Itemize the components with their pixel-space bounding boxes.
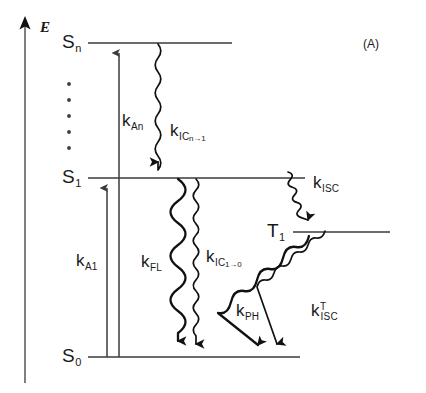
- jablonski-diagram: E (A) Sn S1 T1 S0 kAn kA1 kICn→1 kFL kIC…: [0, 0, 426, 393]
- rate-label-kISCT: kTISC: [311, 302, 343, 319]
- rate-sub-kISCT: ISC: [321, 311, 338, 322]
- rate-base-kAn: k: [122, 111, 131, 130]
- state-base-S0: S: [62, 345, 75, 366]
- diagram-canvas: [0, 0, 426, 393]
- rate-label-kIC10: kIC1→0: [206, 248, 242, 265]
- rate-sub3-kIC10: 0: [237, 260, 241, 269]
- rate-label-kAn: kAn: [122, 112, 143, 129]
- rate-sub3-kICn1: 1: [201, 134, 205, 143]
- rate-label-kISC: kISC: [313, 174, 339, 191]
- rate-sub-kPH: PH: [245, 311, 259, 322]
- energy-axis: [19, 16, 30, 383]
- internal-conversion-wave-kICn1: [155, 44, 161, 170]
- rate-base-kISCT: k: [311, 301, 320, 320]
- rate-sub-kA1: A1: [85, 261, 98, 272]
- rate-base-kIC10: k: [206, 247, 215, 266]
- state-sub-T1: 1: [279, 231, 285, 243]
- rate-base-kICn1: k: [170, 121, 179, 140]
- rate-sub-kAn: An: [131, 121, 144, 132]
- rate-base-kA1: k: [76, 251, 85, 270]
- state-sub-Sn: n: [75, 42, 81, 54]
- panel-label: (A): [363, 38, 379, 50]
- state-label-S0: S0: [62, 346, 81, 365]
- rate-base-kPH: k: [236, 301, 245, 320]
- state-label-S1: S1: [62, 167, 81, 186]
- state-sub-S1: 1: [75, 177, 81, 189]
- rate-sub-kFL: FL: [150, 262, 162, 273]
- rate-base-kFL: k: [141, 252, 150, 271]
- vibrational-dots: [67, 82, 71, 150]
- state-base-Sn: S: [62, 31, 75, 52]
- rate-label-kICn1: kICn→1: [170, 122, 206, 139]
- energy-axis-label: E: [40, 20, 50, 35]
- state-sub-S0: 0: [75, 356, 81, 368]
- rate-sub-kICn1: IC: [179, 131, 189, 142]
- fluorescence-wave-kFL: [171, 179, 186, 341]
- state-label-Sn: Sn: [62, 32, 81, 51]
- state-label-T1: T1: [267, 221, 285, 240]
- state-base-T1: T: [267, 220, 279, 241]
- rate-label-kPH: kPH: [236, 302, 259, 319]
- internal-conversion-wave-kIC10: [193, 179, 198, 344]
- rate-label-kFL: kFL: [141, 253, 162, 270]
- rate-sub-kIC10: IC: [215, 257, 225, 268]
- intersystem-crossing-wave-kISC: [288, 172, 308, 220]
- state-base-S1: S: [62, 166, 75, 187]
- rate-label-kA1: kA1: [76, 252, 97, 269]
- rate-base-kISC: k: [313, 173, 322, 192]
- rate-sub-kISC: ISC: [322, 183, 339, 194]
